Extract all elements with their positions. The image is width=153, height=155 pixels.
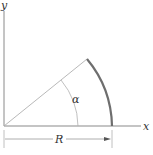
radius-label: R xyxy=(54,133,63,146)
arc-diagram: y x α R xyxy=(0,0,153,155)
angle-alpha-label: α xyxy=(72,93,80,106)
y-axis-label: y xyxy=(0,0,8,12)
x-axis-label: x xyxy=(143,120,150,133)
circular-arc xyxy=(87,59,112,126)
arrowhead-icon xyxy=(104,137,111,141)
